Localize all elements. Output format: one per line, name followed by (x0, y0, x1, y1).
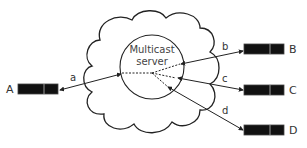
link-c (178, 78, 243, 90)
device-A (18, 84, 58, 94)
link-label-a: a (70, 73, 76, 83)
link-d (168, 87, 243, 130)
link-label-c: c (222, 74, 228, 84)
node-label-a: A (6, 84, 14, 95)
node-label-c: C (289, 85, 297, 96)
multicast-diagram: Multicast server A B C D a b c d (0, 0, 307, 148)
server-label: Multicast server (122, 44, 182, 68)
node-label-d: D (289, 125, 297, 136)
device-C (244, 85, 284, 95)
server-label-line2: server (122, 56, 182, 68)
link-label-d: d (222, 106, 228, 116)
network-cloud (84, 11, 219, 133)
diagram-graphics (0, 0, 307, 148)
device-D (244, 125, 284, 135)
link-label-b: b (222, 42, 228, 52)
device-B (244, 44, 284, 54)
server-label-line1: Multicast (122, 44, 182, 56)
node-label-b: B (289, 44, 297, 55)
